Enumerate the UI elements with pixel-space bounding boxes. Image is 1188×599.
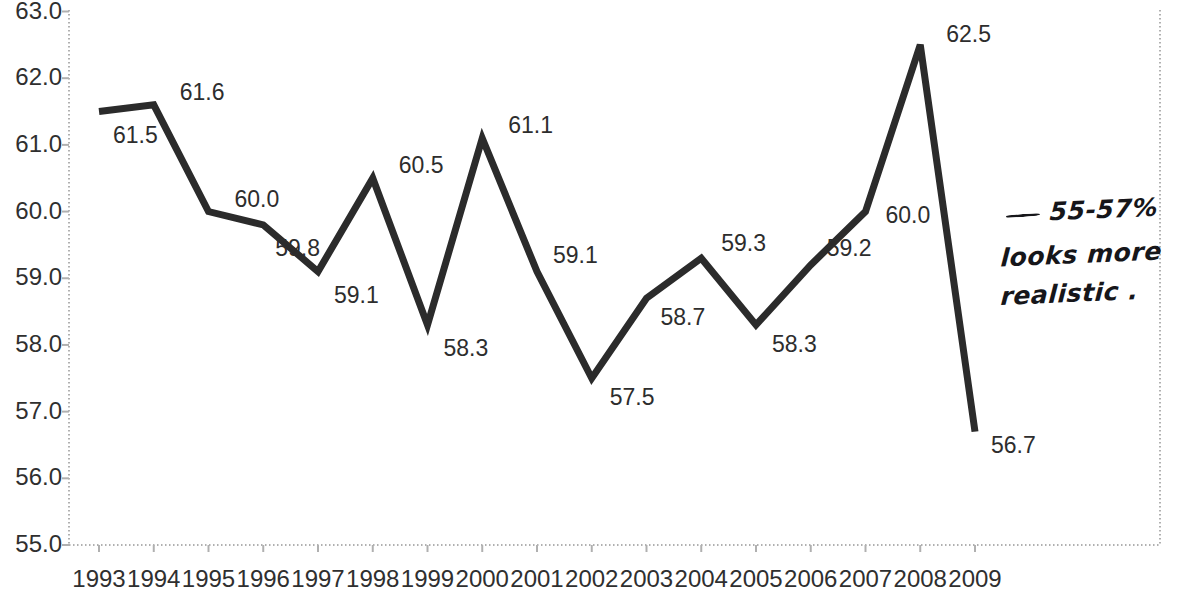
y-axis-tick-marks — [62, 12, 69, 546]
data-point-label: 58.3 — [772, 331, 817, 358]
data-point-label: 57.5 — [610, 384, 655, 411]
x-axis-tick-label: 2007 — [839, 565, 892, 593]
x-axis-tick-label: 1995 — [182, 565, 235, 593]
x-axis-tick-label: 1994 — [127, 565, 180, 593]
data-point-label: 61.6 — [180, 79, 225, 106]
x-axis-tick-label: 2000 — [456, 565, 509, 593]
x-axis-tick-label: 2003 — [620, 565, 673, 593]
x-axis-tick-label: 2009 — [948, 565, 1001, 593]
x-axis-tick-marks — [99, 545, 975, 552]
y-axis-tick-label: 60.0 — [0, 197, 62, 225]
data-point-label: 59.1 — [334, 282, 379, 309]
x-axis-tick-label: 2006 — [784, 565, 837, 593]
data-point-label: 59.2 — [827, 235, 872, 262]
y-axis-tick-label: 58.0 — [0, 330, 62, 358]
y-axis-tick-label: 61.0 — [0, 130, 62, 158]
x-axis-tick-label: 1996 — [237, 565, 290, 593]
y-axis-tick-label: 57.0 — [0, 397, 62, 425]
y-axis-tick-label: 63.0 — [0, 0, 62, 25]
x-axis-tick-label: 2001 — [510, 565, 563, 593]
data-point-label: 61.5 — [113, 122, 158, 149]
data-point-label: 60.5 — [399, 152, 444, 179]
x-axis-tick-label: 1993 — [72, 565, 125, 593]
data-point-label: 60.0 — [235, 186, 280, 213]
data-point-label: 60.0 — [886, 202, 931, 229]
y-axis-tick-label: 62.0 — [0, 63, 62, 91]
data-point-label: 59.1 — [553, 242, 598, 269]
y-axis-tick-label: 59.0 — [0, 263, 62, 291]
x-axis-tick-label: 1997 — [291, 565, 344, 593]
x-axis-tick-label: 2008 — [894, 565, 947, 593]
x-axis-tick-label: 1999 — [401, 565, 454, 593]
line-chart: 63.062.061.060.059.058.057.056.055.0 199… — [0, 0, 1188, 599]
x-axis-tick-label: 2005 — [729, 565, 782, 593]
chart-page: 63.062.061.060.059.058.057.056.055.0 199… — [0, 0, 1188, 599]
y-axis-tick-label: 56.0 — [0, 463, 62, 491]
annotation-line-1: 55-57% — [1049, 193, 1159, 227]
data-point-label: 58.3 — [444, 335, 489, 362]
data-point-label: 56.7 — [991, 432, 1036, 459]
data-point-label: 59.3 — [721, 230, 766, 257]
x-axis-tick-label: 2004 — [675, 565, 728, 593]
data-point-label: 58.7 — [661, 304, 706, 331]
x-axis-tick-label: 2002 — [565, 565, 618, 593]
y-axis-tick-label: 55.0 — [0, 530, 62, 558]
x-axis-tick-label: 1998 — [346, 565, 399, 593]
data-point-label: 61.1 — [508, 112, 553, 139]
data-point-label: 62.5 — [946, 21, 991, 48]
annotation-line-3: realistic . — [1000, 276, 1139, 311]
data-point-label: 59.8 — [275, 235, 320, 262]
